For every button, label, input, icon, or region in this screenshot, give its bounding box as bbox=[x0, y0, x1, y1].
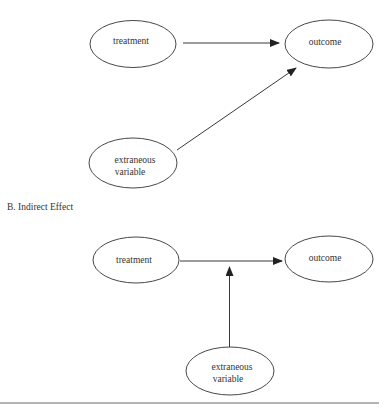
node-label: treatment bbox=[113, 36, 149, 46]
node-outcome-a: outcome bbox=[285, 20, 373, 68]
node-treatment-a: treatment bbox=[90, 21, 176, 68]
node-extraneous-a: extraneous variable bbox=[89, 138, 177, 188]
node-label: treatment bbox=[116, 255, 152, 265]
node-label: outcome bbox=[309, 253, 342, 263]
diagram-b: treatment outcome extraneous variable bbox=[93, 236, 373, 395]
node-label: outcome bbox=[309, 37, 342, 47]
edge-extraneous-outcome-a bbox=[177, 68, 296, 150]
node-label-line2: variable bbox=[213, 374, 244, 384]
section-title-indirect-effect: B. Indirect Effect bbox=[7, 202, 73, 212]
diagram-a: treatment outcome extraneous variable bbox=[89, 20, 373, 188]
node-treatment-b: treatment bbox=[93, 237, 179, 283]
node-extraneous-b: extraneous variable bbox=[186, 347, 274, 395]
node-label-line1: extraneous bbox=[211, 362, 252, 372]
node-label-line1: extraneous bbox=[114, 155, 155, 165]
node-label-line2: variable bbox=[115, 167, 146, 177]
node-outcome-b: outcome bbox=[285, 236, 373, 282]
